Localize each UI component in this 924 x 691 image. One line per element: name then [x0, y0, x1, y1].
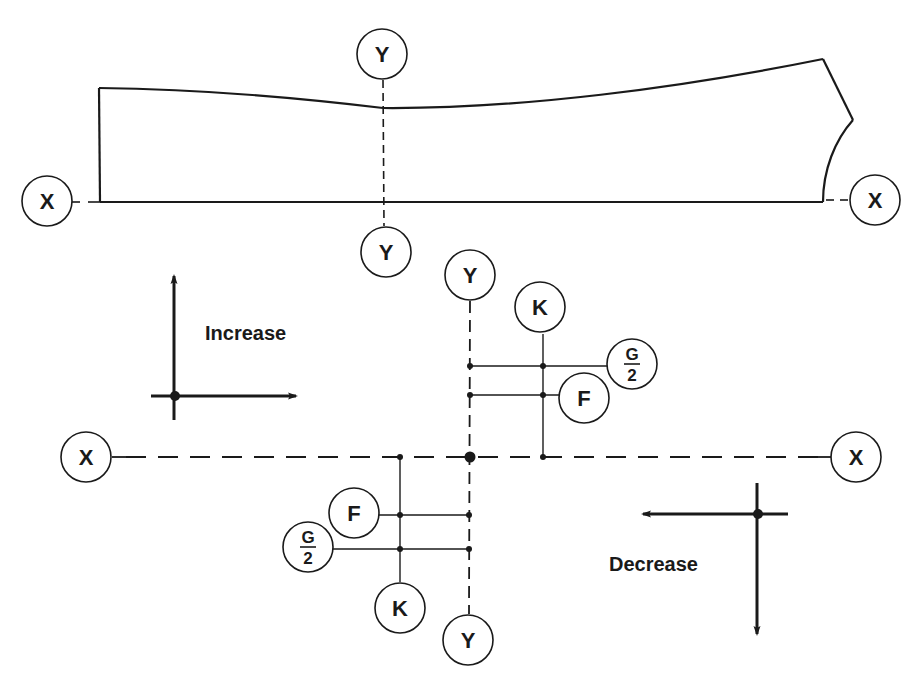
center-x-left-label: X — [79, 445, 94, 470]
lower-f-bubble: F — [329, 488, 379, 538]
datum-diagram: X X Y Y — [0, 0, 924, 691]
top-x-left-label: X — [40, 189, 55, 214]
lower-g-half-bubble: G 2 — [283, 522, 333, 572]
top-y-section-line — [383, 80, 384, 226]
center-x-left-bubble: X — [61, 432, 111, 482]
center-x-right-label: X — [849, 445, 864, 470]
upper-f-label: F — [577, 386, 590, 411]
upper-k-bubble: K — [515, 282, 565, 332]
top-y-top-bubble: Y — [357, 29, 407, 79]
lower-g-numerator: G — [301, 528, 314, 547]
upper-f-bubble: F — [559, 373, 609, 423]
upper-g-half-bubble: G 2 — [607, 339, 657, 389]
center-x-right-bubble: X — [831, 432, 881, 482]
upper-g-denominator: 2 — [627, 366, 636, 385]
center-y-bottom-label: Y — [461, 628, 476, 653]
increase-label: Increase — [205, 322, 286, 344]
center-y-bottom-bubble: Y — [443, 615, 493, 665]
top-x-right-bubble: X — [850, 175, 900, 225]
upper-g-numerator: G — [625, 345, 638, 364]
decrease-label: Decrease — [609, 553, 698, 575]
center-y-top-bubble: Y — [445, 250, 495, 300]
lower-g-denominator: 2 — [303, 549, 312, 568]
lower-k-label: K — [392, 596, 408, 621]
top-y-bottom-label: Y — [379, 240, 394, 265]
beam-profile — [99, 59, 853, 202]
top-y-top-label: Y — [375, 42, 390, 67]
top-x-left-bubble: X — [22, 176, 72, 226]
lower-k-bubble: K — [375, 583, 425, 633]
lower-f-label: F — [347, 501, 360, 526]
top-y-bottom-bubble: Y — [361, 227, 411, 277]
origin-point — [465, 452, 476, 463]
center-y-top-label: Y — [463, 263, 478, 288]
upper-k-label: K — [532, 295, 548, 320]
top-x-right-label: X — [868, 188, 883, 213]
increase-arrows — [151, 276, 296, 420]
